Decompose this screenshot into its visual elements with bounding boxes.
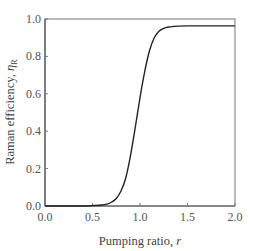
x-tick-label: 2.0 [228,210,243,224]
y-tick-label: 1.0 [26,12,41,26]
plot-border [45,19,235,206]
y-tick-label: 0.2 [26,162,41,176]
x-tick-labels: 0.00.51.01.52.0 [38,210,243,224]
efficiency-curve [45,26,235,206]
y-tick-label: 0.8 [26,49,41,63]
y-tick-label: 0.4 [26,124,41,138]
chart: 0.00.20.40.60.81.0 0.00.51.01.52.0 Pumpi… [0,0,256,251]
y-tick-labels: 0.00.20.40.60.81.0 [26,12,41,213]
x-tick-label: 1.5 [180,210,195,224]
x-tick-label: 0.5 [85,210,100,224]
y-tick-label: 0.6 [26,87,41,101]
plot-frame [45,19,235,206]
x-axis-label: Pumping ratio, r [99,234,181,248]
x-tick-label: 1.0 [133,210,148,224]
axis-ticks [45,19,235,206]
x-tick-label: 0.0 [38,210,53,224]
y-axis-label: Raman efficiency, ηR [3,59,19,165]
